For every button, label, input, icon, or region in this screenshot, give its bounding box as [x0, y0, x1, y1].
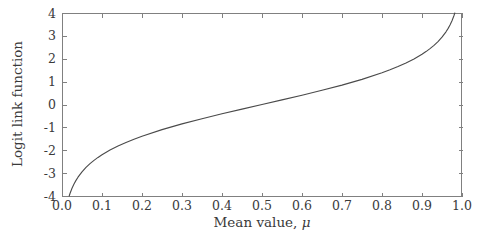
- x-tick-label: 0.4: [212, 198, 232, 213]
- x-tick-label: 0.1: [92, 198, 112, 213]
- x-tick-label: 0.6: [292, 198, 312, 213]
- figure-container: 0.00.10.20.30.40.50.60.70.80.91.0 43210-…: [0, 0, 497, 233]
- y-tick-label: 0: [48, 97, 56, 112]
- x-tick-label: 0.9: [412, 198, 432, 213]
- y-axis-title: Logit link function: [9, 41, 25, 167]
- y-tick-label: 3: [48, 28, 56, 43]
- x-tick-label: 0.3: [172, 198, 192, 213]
- y-tick-label: 4: [48, 6, 56, 21]
- x-tick-label: 0.5: [252, 198, 272, 213]
- x-tick-label: 0.8: [372, 198, 392, 213]
- y-tick-label: -2: [44, 143, 56, 158]
- y-tick-label: 1: [48, 74, 56, 89]
- x-tick-label: 1.0: [452, 198, 472, 213]
- x-tick-label: 0.7: [332, 198, 352, 213]
- logit-link-function-chart: 0.00.10.20.30.40.50.60.70.80.91.0 43210-…: [0, 0, 497, 233]
- y-tick-label: -3: [44, 166, 56, 181]
- x-axis-title: Mean value, μ: [214, 214, 311, 230]
- x-tick-label: 0.2: [132, 198, 152, 213]
- y-tick-label: -1: [44, 120, 56, 135]
- y-tick-label: 2: [48, 51, 56, 66]
- y-tick-label: -4: [44, 189, 56, 204]
